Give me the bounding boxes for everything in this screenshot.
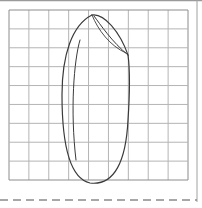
grid-paper-drawing: [0, 0, 202, 208]
